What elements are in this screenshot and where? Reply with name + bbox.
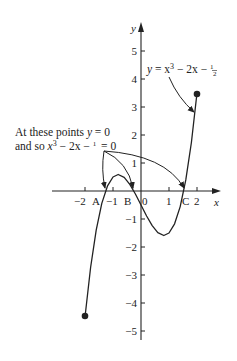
left-endpoint-dot	[82, 313, 89, 320]
svg-text:−1: −1	[125, 213, 137, 225]
svg-text:−2: −2	[74, 195, 86, 207]
root-label-c: C	[182, 195, 189, 207]
arrow-to-root-a	[103, 151, 105, 188]
svg-text:−1: −1	[106, 195, 118, 207]
x-axis-label: x	[213, 196, 219, 208]
svg-text:1: 1	[166, 195, 172, 207]
annotation-line-2: and so x3 − 2x − 1 = 0	[15, 139, 116, 152]
svg-text:−4: −4	[125, 297, 137, 309]
cubic-function-graph: y x 5 4 3 2 1 −1 −2 −3 −4 −5 −2 −1 0 1 2…	[0, 0, 237, 361]
svg-text:3: 3	[132, 101, 138, 113]
equation-label-frac-den: 2	[213, 70, 217, 78]
annotation-line-1: At these points y = 0	[15, 126, 110, 139]
y-axis-label: y	[130, 22, 136, 34]
root-annotation-arrows	[103, 151, 184, 188]
arrow-to-root-c	[104, 151, 184, 188]
y-axis	[138, 22, 145, 340]
root-label-a: A	[92, 195, 100, 207]
x-axis-arrow-icon	[212, 188, 221, 194]
svg-text:5: 5	[132, 45, 138, 57]
svg-text:1: 1	[132, 157, 138, 169]
svg-text:−2: −2	[125, 241, 137, 253]
equation-label: y = x3 − 2x − 1	[146, 62, 214, 76]
x-axis	[52, 187, 221, 194]
svg-text:−3: −3	[125, 269, 137, 281]
svg-text:0: 0	[142, 195, 148, 207]
svg-text:2: 2	[132, 129, 138, 141]
y-axis-arrow-icon	[138, 22, 144, 32]
svg-text:2: 2	[194, 195, 200, 207]
equation-arrow	[169, 77, 194, 112]
svg-text:−5: −5	[125, 325, 137, 337]
right-endpoint-dot	[194, 91, 201, 98]
root-label-b: B	[124, 195, 131, 207]
svg-text:4: 4	[132, 73, 138, 85]
